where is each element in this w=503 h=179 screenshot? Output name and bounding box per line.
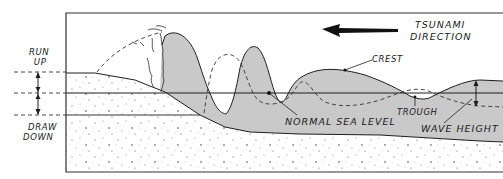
draw-down-label: DRAW DOWN: [23, 122, 57, 142]
crest-label: CREST: [372, 54, 403, 64]
run-up-arrowhead-icon: [36, 72, 41, 78]
run-up-label: RUN UP: [29, 47, 49, 67]
tsunami-diagram: RUN UP DRAW DOWN TSUNAMI DIRECTION CREST…: [0, 0, 503, 179]
normal-sea-level-label: NORMAL SEA LEVEL: [285, 116, 396, 128]
draw-down-arrowhead-icon: [36, 109, 41, 115]
trough-label: TROUGH: [397, 107, 438, 117]
tsunami-direction-arrow-icon: [322, 24, 398, 37]
tsunami-direction-label: TSUNAMI DIRECTION: [410, 19, 472, 43]
wave-height-label: WAVE HEIGHT: [421, 123, 499, 135]
